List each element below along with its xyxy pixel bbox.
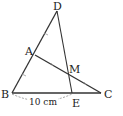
segment-db [12,11,57,93]
point-label-b: B [1,88,9,101]
point-label-m: M [69,63,80,76]
point-label-a: A [24,45,34,58]
dimension-label: 10 cm [29,97,57,107]
point-label-d: D [53,0,62,13]
segment-de [57,11,72,93]
geometry-diagram: 10 cm D A M B E C [0,0,123,116]
point-label-c: C [104,88,112,101]
point-label-e: E [72,97,80,110]
